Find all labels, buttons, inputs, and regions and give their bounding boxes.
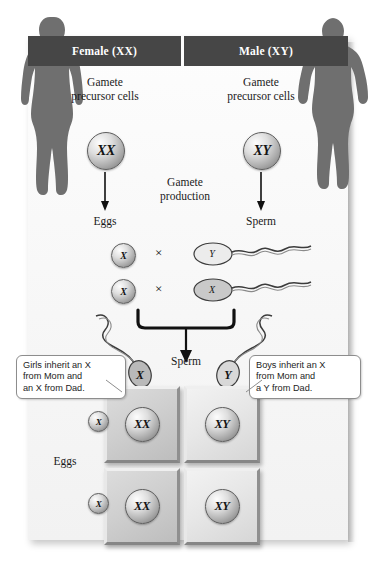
boys-callout-line3: a Y from Dad. (256, 383, 354, 394)
male-precursor-line2: precursor cells (211, 90, 311, 104)
boys-callout-line1: Boys inherit an X (256, 360, 354, 371)
female-precursor-line1: Gamete (66, 76, 144, 90)
sperm-gamete-2-allele: X (205, 283, 219, 297)
punnett-cell-0-0-genotype: XX (134, 417, 150, 432)
punnett-row-gamete-1: X (88, 411, 109, 432)
punnett-cell-0-1-genotype: XY (214, 417, 229, 432)
boys-inheritance-callout: Boys inherit an X from Mom and a Y from … (249, 355, 361, 399)
sex-determination-diagram: Female (XX) Male (XY) Gamete precursor c… (0, 0, 369, 562)
fusion-sperm-label: Sperm (160, 355, 212, 369)
female-meiosis-arrow-icon (97, 172, 113, 216)
boys-callout-line2: from Mom and (256, 371, 354, 382)
girls-callout-line3: an X from Dad. (23, 383, 119, 394)
cross-symbol-1: × (155, 245, 162, 261)
punnett-cell-1-1-zygote: XY (205, 489, 240, 524)
egg-gamete-2: X (111, 279, 136, 304)
male-column-header: Male (XY) (184, 36, 348, 66)
female-precursor-cell: XX (87, 132, 125, 170)
punnett-cell-1-1-genotype: XY (214, 499, 229, 514)
punnett-cell-1-0-zygote: XX (125, 489, 160, 524)
punnett-row-gamete-2-allele: X (96, 499, 102, 509)
cross-symbol-2: × (155, 281, 162, 297)
female-column-header: Female (XX) (28, 36, 181, 66)
gamete-production-line2: production (133, 190, 237, 204)
punnett-row-gamete-2: X (88, 493, 109, 514)
egg-gamete-1-allele: X (120, 250, 126, 261)
egg-gamete-2-allele: X (120, 286, 126, 297)
eggs-label: Eggs (80, 215, 130, 229)
girls-callout-line1: Girls inherit an X (23, 360, 119, 371)
punnett-square: XX XY XX XY (104, 386, 264, 548)
female-precursor-genotype: XX (97, 143, 115, 159)
punnett-cell-0-0-zygote: XX (125, 407, 160, 442)
female-precursor-line2: precursor cells (55, 90, 155, 104)
girls-callout-leader-line (106, 378, 132, 396)
punnett-cell-1-0: XX (104, 468, 180, 545)
male-precursor-genotype: XY (253, 143, 270, 159)
male-meiosis-arrow-icon (253, 172, 269, 216)
male-header-label: Male (XY) (239, 45, 293, 57)
female-header-label: Female (XX) (72, 45, 137, 57)
svg-text:X: X (135, 368, 145, 382)
gamete-production-line1: Gamete (138, 176, 232, 190)
punnett-row-gamete-1-allele: X (96, 417, 102, 427)
boys-callout-leader-line (236, 378, 262, 396)
girls-callout-line2: from Mom and (23, 371, 119, 382)
punnett-cell-1-1: XY (184, 468, 260, 545)
male-precursor-line1: Gamete (222, 76, 300, 90)
punnett-cell-0-1-zygote: XY (205, 407, 240, 442)
sperm-label: Sperm (233, 215, 289, 229)
male-precursor-cell: XY (243, 132, 281, 170)
egg-gamete-1: X (111, 243, 136, 268)
punnett-eggs-axis-label: Eggs (41, 455, 89, 469)
punnett-cell-0-1: XY (184, 386, 260, 463)
punnett-cell-1-0-genotype: XX (134, 499, 150, 514)
sperm-gamete-1-allele: Y (205, 247, 219, 261)
